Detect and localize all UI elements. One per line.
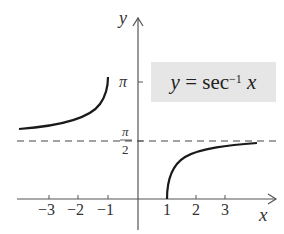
chart-canvas: y x π π 2 −3 −2 −1 1 2 3: [0, 0, 284, 234]
legend-x: x: [247, 70, 256, 95]
y-axis-label: y: [117, 8, 127, 28]
curve-right-branch: [167, 143, 257, 199]
y-tick-label-pi-half-num: π: [122, 124, 129, 139]
y-tick-label-pi-half-den: 2: [122, 142, 129, 157]
x-tick-label-2: 2: [192, 201, 200, 218]
legend-y: y: [171, 70, 180, 95]
x-tick-label-3: 3: [221, 201, 229, 218]
x-tick-label-1: 1: [163, 201, 171, 218]
x-tick-label-neg2: −2: [67, 201, 84, 218]
x-tick-label-neg1: −1: [97, 201, 114, 218]
legend-eq: = sec: [185, 70, 229, 95]
x-tick-label-neg3: −3: [38, 201, 55, 218]
y-tick-label-pi: π: [119, 73, 128, 90]
x-axis-label: x: [258, 204, 268, 225]
curve-left-branch: [19, 77, 108, 129]
legend-sup: −1: [229, 72, 242, 87]
legend-box: y = sec−1 x: [151, 62, 276, 102]
